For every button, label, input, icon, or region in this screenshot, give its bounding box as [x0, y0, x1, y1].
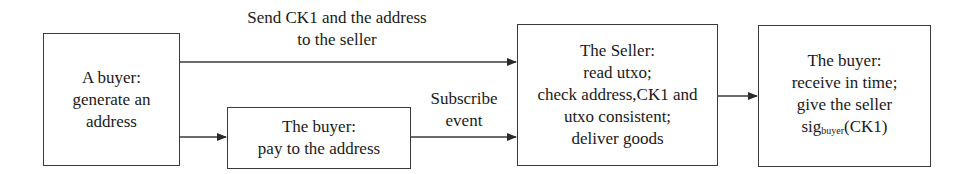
- edge-label-line: Subscribe: [418, 88, 510, 110]
- edge-label-line: to the seller: [217, 29, 457, 51]
- node-buyer-pay: The buyer: pay to the address: [227, 107, 411, 169]
- node-text-line: The Seller:: [580, 40, 655, 62]
- node-text-line: utxo consistent;: [564, 106, 671, 128]
- edge-label-line: event: [418, 110, 510, 132]
- node-text-line: give the seller: [797, 94, 892, 116]
- node-buyer-receive: The buyer: receive in time; give the sel…: [758, 25, 931, 167]
- node-seller: The Seller: read utxo; check address,CK1…: [517, 24, 718, 166]
- signature-argument: (CK1): [844, 117, 887, 136]
- node-text-line: deliver goods: [571, 128, 663, 150]
- edge-label-subscribe-event: Subscribe event: [418, 88, 510, 132]
- node-text-line: check address,CK1 and: [537, 84, 697, 106]
- node-text-line: The buyer:: [282, 116, 356, 138]
- node-text-line: read utxo;: [583, 62, 651, 84]
- signature-base: sig: [801, 117, 821, 136]
- node-buyer-generate-address: A buyer: generate an address: [43, 33, 180, 166]
- node-text-line: receive in time;: [792, 72, 898, 94]
- signature-expression: sigbuyer(CK1): [801, 116, 887, 142]
- node-text-line: address: [86, 111, 137, 133]
- node-text-line: A buyer:: [82, 67, 141, 89]
- signature-subscript: buyer: [821, 125, 844, 136]
- edge-label-line: Send CK1 and the address: [217, 7, 457, 29]
- edge-label-send-ck1: Send CK1 and the address to the seller: [217, 7, 457, 51]
- node-text-line: generate an: [73, 89, 151, 111]
- node-text-line: pay to the address: [258, 138, 380, 160]
- node-text-line: The buyer:: [807, 50, 881, 72]
